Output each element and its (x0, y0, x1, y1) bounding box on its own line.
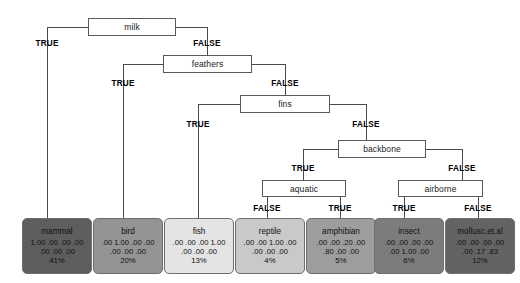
leaf-node-insect[interactable]: insect .00 .00 .00 .00 .00 1.00 .00 6% (374, 218, 444, 274)
leaf-node-mollusc-row2: .00 .17 .83 (462, 247, 498, 256)
leaf-node-mammal-percent: 41% (49, 256, 65, 266)
leaf-node-insect-row2: .00 1.00 .00 (389, 247, 429, 256)
leaf-node-insect-row1: .00 .00 .00 .00 (385, 238, 434, 247)
leaf-node-mammal-row1: 1.00 .00 .00 .00 (31, 238, 84, 247)
decision-node-backbone-label: backbone (363, 144, 401, 154)
edge-label-fins-true: TRUE (186, 120, 209, 129)
leaf-node-mollusc-name: mollusc.et.al (457, 227, 503, 237)
leaf-node-reptile-row1: .00 .00 1.00 .00 (244, 238, 297, 247)
leaf-node-mollusc[interactable]: mollusc.et.al .00 .00 .00 .00 .00 .17 .8… (445, 218, 515, 274)
decision-node-milk-label: milk (124, 22, 140, 32)
leaf-node-bird-row1: .00 1.00 .00 .00 (102, 238, 155, 247)
leaf-node-mammal-name: mammal (41, 227, 72, 237)
decision-node-feathers[interactable]: feathers (163, 55, 252, 73)
leaf-node-amphibian-row2: .80 .00 .00 (323, 247, 359, 256)
edge-label-airborne-true: TRUE (392, 204, 415, 213)
decision-node-milk[interactable]: milk (88, 18, 176, 36)
leaf-node-amphibian[interactable]: amphibian .00 .00 .20 .00 .80 .00 .00 5% (306, 218, 376, 274)
edge-label-airborne-false: FALSE (464, 204, 491, 213)
leaf-node-insect-name: insect (398, 227, 419, 237)
edge-label-backbone-false: FALSE (448, 164, 475, 173)
leaf-node-fish[interactable]: fish .00 .00 .00 1.00 .00 .00 .00 13% (164, 218, 234, 274)
decision-node-aquatic[interactable]: aquatic (262, 180, 346, 197)
decision-node-aquatic-label: aquatic (290, 184, 318, 194)
edge-label-aquatic-false: FALSE (253, 204, 280, 213)
decision-node-airborne[interactable]: airborne (398, 180, 483, 197)
leaf-node-fish-name: fish (193, 227, 206, 237)
edge-label-milk-false: FALSE (193, 39, 220, 48)
leaf-node-bird-percent: 20% (120, 256, 136, 266)
decision-node-fins[interactable]: fins (240, 95, 330, 113)
edge-milk-true (47, 27, 88, 218)
leaf-node-mammal[interactable]: mammal 1.00 .00 .00 .00 .00 .00 .00 41% (22, 218, 92, 274)
decision-node-backbone[interactable]: backbone (338, 140, 426, 158)
leaf-node-bird[interactable]: bird .00 1.00 .00 .00 .00 .00 .00 20% (93, 218, 163, 274)
leaf-node-reptile-name: reptile (259, 227, 281, 237)
edge-label-milk-true: TRUE (35, 39, 58, 48)
leaf-node-amphibian-percent: 5% (335, 256, 346, 266)
leaf-node-mollusc-percent: 12% (472, 256, 488, 266)
decision-tree-diagram: milk feathers fins backbone aquatic airb… (0, 0, 520, 283)
leaf-node-fish-percent: 13% (191, 256, 207, 266)
edge-label-fins-false: FALSE (352, 120, 379, 129)
decision-node-airborne-label: airborne (425, 184, 457, 194)
leaf-node-amphibian-name: amphibian (322, 227, 360, 237)
leaf-node-fish-row2: .00 .00 .00 (181, 247, 217, 256)
decision-node-feathers-label: feathers (192, 59, 224, 69)
leaf-node-mollusc-row1: .00 .00 .00 .00 (456, 238, 505, 247)
leaf-node-reptile-row2: .00 .00 .00 (252, 247, 288, 256)
leaf-node-reptile-percent: 4% (264, 256, 275, 266)
decision-node-fins-label: fins (278, 99, 292, 109)
leaf-node-bird-name: bird (121, 227, 135, 237)
leaf-node-bird-row2: .00 .00 .00 (110, 247, 146, 256)
leaf-node-insect-percent: 6% (403, 256, 414, 266)
edge-label-backbone-true: TRUE (291, 164, 314, 173)
leaf-node-mammal-row2: .00 .00 .00 (39, 247, 75, 256)
leaf-node-reptile[interactable]: reptile .00 .00 1.00 .00 .00 .00 .00 4% (235, 218, 305, 274)
leaf-node-amphibian-row1: .00 .00 .20 .00 (317, 238, 366, 247)
leaf-node-fish-row1: .00 .00 .00 1.00 (173, 238, 226, 247)
edge-label-feathers-true: TRUE (111, 79, 134, 88)
edge-label-aquatic-true: TRUE (328, 204, 351, 213)
edge-label-feathers-false: FALSE (271, 79, 298, 88)
